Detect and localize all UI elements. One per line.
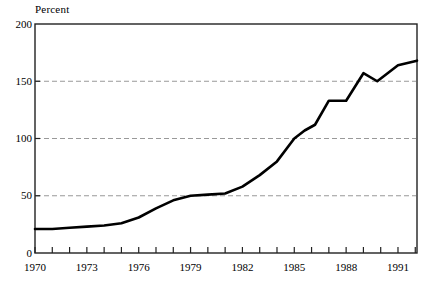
data-series-line [35,61,417,229]
chart-container: Percent 050100150200 1970197319761979198… [0,0,431,284]
line-chart-plot [0,0,431,284]
